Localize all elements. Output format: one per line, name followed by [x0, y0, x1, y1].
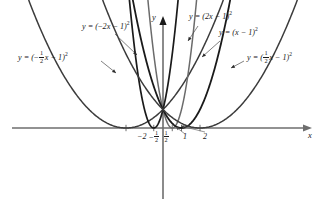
- x-tick-label-one-half: 12: [163, 130, 169, 144]
- x-tick-label-minus-one-half: −12: [149, 130, 160, 144]
- curve-label-a-neg-2: y = (−2x − 1)2: [82, 21, 130, 31]
- parabola-figure: [0, 0, 327, 213]
- curve-label-a-neg-half: y = (−12x − 1)2: [18, 50, 68, 64]
- curve-label-a-1: y = (x − 1)2: [219, 27, 258, 37]
- x-axis-label: x: [308, 131, 312, 140]
- curve-label-a-2: y = (2x − 1)2: [189, 11, 232, 21]
- y-axis-arrow: [159, 16, 166, 25]
- x-tick-label-one: 1: [183, 133, 187, 141]
- leader-arrow-a-2: [188, 37, 192, 41]
- y-axis-label: y: [152, 13, 156, 22]
- plot-canvas: [0, 0, 327, 213]
- x-tick-label-minus-two: −2: [137, 133, 146, 141]
- curve-label-a-half: y = (12x − 1)2: [247, 50, 292, 64]
- x-tick-label-two: 2: [203, 133, 207, 141]
